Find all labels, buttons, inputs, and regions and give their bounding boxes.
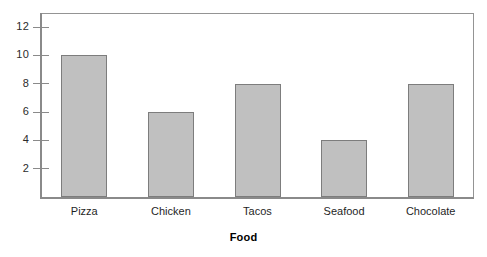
y-tick-label: 2 (5, 163, 29, 174)
y-tick-label: 4 (5, 134, 29, 145)
x-axis-title: Food (0, 231, 487, 243)
y-axis-line (40, 13, 42, 199)
x-tick-label-chicken: Chicken (128, 205, 215, 217)
bar-chicken (148, 112, 194, 197)
bar-chart: 24681012 PizzaChickenTacosSeafoodChocola… (0, 0, 487, 257)
bar-pizza (61, 55, 107, 197)
bar-chocolate (408, 84, 454, 197)
y-tick-label: 10 (5, 49, 29, 60)
y-tick-mark (33, 112, 49, 113)
y-tick-mark (33, 140, 49, 141)
bar-seafood (321, 140, 367, 197)
y-tick-mark (33, 27, 49, 28)
y-tick-mark (33, 168, 49, 169)
y-tick-label: 6 (5, 106, 29, 117)
x-tick-label-pizza: Pizza (41, 205, 128, 217)
x-tick-label-seafood: Seafood (301, 205, 388, 217)
y-tick-mark (33, 83, 49, 84)
bar-tacos (235, 84, 281, 197)
x-tick-label-chocolate: Chocolate (387, 205, 474, 217)
y-tick-label: 8 (5, 78, 29, 89)
y-tick-mark (33, 55, 49, 56)
x-tick-label-tacos: Tacos (214, 205, 301, 217)
x-axis-line (40, 197, 474, 199)
y-tick-label: 12 (5, 21, 29, 32)
